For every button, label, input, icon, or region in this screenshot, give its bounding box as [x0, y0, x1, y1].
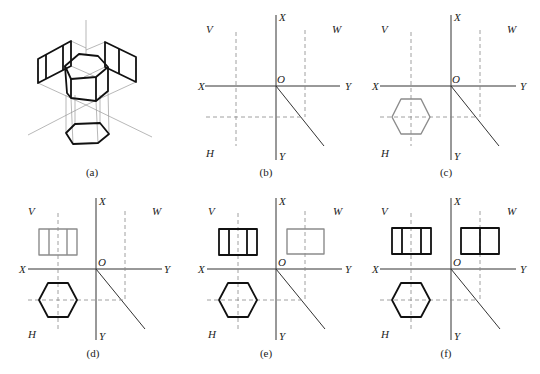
caption-b: (b) [260, 166, 273, 179]
label-origin: O [98, 256, 106, 268]
45-degree-line [96, 269, 145, 329]
caption-c: (c) [440, 166, 453, 179]
panel-b: V W H X X Y Y O (b) [197, 11, 353, 179]
projector-line [96, 101, 98, 143]
label-y-bottom: Y [454, 150, 462, 162]
label-origin: O [453, 256, 461, 268]
three-view-projection-figure: (a) V W H X X Y Y O (b) V W H X X Y Y O … [0, 0, 540, 374]
h-plane-axis-left [28, 105, 86, 135]
45-degree-line [276, 269, 325, 329]
panel-c: V W H X X Y Y O (c) [371, 11, 528, 179]
45-degree-line [451, 86, 499, 146]
front-view-rectangle [392, 228, 431, 254]
label-y-right: Y [164, 263, 172, 275]
label-v: V [28, 205, 36, 217]
label-y-bottom: Y [279, 330, 287, 342]
label-y-right: Y [520, 263, 528, 275]
label-x-top: X [278, 195, 287, 207]
panel-f: V W H X X Y Y O (f) [371, 195, 528, 360]
45-degree-line [276, 86, 324, 146]
panel-d: V W H X X Y Y O (d) [18, 195, 172, 360]
label-y-bottom: Y [99, 330, 107, 342]
label-v: V [206, 23, 214, 35]
label-y-bottom: Y [279, 150, 287, 162]
caption-d: (d) [87, 347, 100, 360]
projector-line [108, 91, 109, 134]
45-degree-line [451, 269, 500, 329]
side-view-rectangle [287, 229, 324, 254]
label-x-top: X [98, 195, 107, 207]
projector-line [71, 66, 96, 77]
label-x-top: X [278, 11, 287, 23]
label-v: V [381, 23, 389, 35]
label-x-left: X [371, 80, 380, 92]
label-origin: O [277, 73, 285, 85]
label-x-left: X [197, 263, 206, 275]
projector-line [71, 41, 86, 48]
label-v: V [381, 205, 389, 217]
h-plane-axis-right [86, 105, 152, 137]
label-y-right: Y [345, 263, 353, 275]
label-origin: O [278, 256, 286, 268]
label-w: W [333, 205, 343, 217]
label-x-left: X [371, 263, 380, 275]
projector-line [71, 98, 73, 144]
label-v: V [208, 205, 216, 217]
label-x-left: X [197, 80, 206, 92]
label-w: W [507, 23, 517, 35]
panel-a: (a) [28, 20, 152, 179]
label-y-bottom: Y [454, 330, 462, 342]
projector-line [86, 42, 105, 50]
caption-a: (a) [86, 166, 99, 179]
panel-e: V W H X X Y Y O (e) [197, 195, 353, 360]
label-h: H [205, 147, 215, 159]
label-origin: O [452, 73, 460, 85]
v-plane-base-line [38, 83, 86, 105]
caption-f: (f) [441, 347, 452, 360]
label-x-left: X [18, 263, 27, 275]
label-x-top: X [453, 195, 462, 207]
label-w: W [507, 205, 517, 217]
label-h: H [380, 328, 390, 340]
label-y-right: Y [345, 80, 353, 92]
label-h: H [27, 328, 37, 340]
side-view-on-w-plane [105, 42, 136, 82]
label-y-right: Y [520, 80, 528, 92]
label-w: W [152, 205, 162, 217]
label-x-top: X [453, 11, 462, 23]
label-h: H [380, 147, 390, 159]
label-w: W [332, 23, 342, 35]
label-h: H [207, 328, 217, 340]
caption-e: (e) [260, 347, 273, 360]
